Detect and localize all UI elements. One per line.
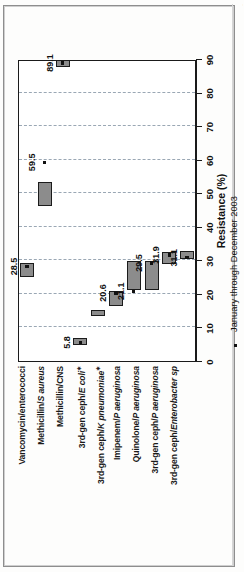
chart-stage: Vancomycin/enterococci Methicillin/S aur… xyxy=(15,12,229,560)
data-value-label: 21.1 xyxy=(116,282,126,300)
x-tick-70 xyxy=(196,126,202,127)
data-value-label: 31.1 xyxy=(169,249,179,267)
x-tick-30 xyxy=(196,260,202,261)
data-value-label: 5.8 xyxy=(62,336,72,349)
data-value-label: 59.5 xyxy=(27,154,37,172)
x-axis-line xyxy=(196,60,197,362)
x-tick-80 xyxy=(196,93,202,94)
x-tick-label-10: 10 xyxy=(204,323,215,334)
figure-page: nosocomial infections in IC Vancomycin/e… xyxy=(0,0,244,572)
category-label-imipenem-p-aeruginosa: Imipenem/P aeruginosa xyxy=(112,366,122,460)
x-tick-90 xyxy=(196,59,202,60)
x-tick-label-40: 40 xyxy=(204,222,215,233)
category-label-vancomycin-enterococci: Vancomycin/enterococci xyxy=(17,366,27,465)
adjacent-column-text: nosocomial infections in IC xyxy=(241,4,243,6)
sd-bar xyxy=(91,310,105,316)
category-label-methicillin-cns: Methicillin/CNS xyxy=(55,366,65,427)
data-value-label: 28.5 xyxy=(9,258,19,276)
legend-label-2003: January through December 2003 xyxy=(229,196,239,332)
chart-legend: January through December 2003 1998 throu… xyxy=(229,34,244,354)
gridline-70 xyxy=(19,125,195,126)
sd-bar xyxy=(145,261,159,290)
category-axis-labels: Vancomycin/enterococci Methicillin/S aur… xyxy=(15,364,200,560)
sd-bar xyxy=(38,182,52,205)
x-tick-50 xyxy=(196,193,202,194)
x-tick-20 xyxy=(196,294,202,295)
x-tick-0 xyxy=(196,361,202,362)
gridline-80 xyxy=(19,92,195,93)
x-tick-label-0: 0 xyxy=(204,359,215,364)
x-tick-label-50: 50 xyxy=(204,189,215,200)
gridline-60 xyxy=(19,159,195,160)
gridline-10 xyxy=(19,326,195,327)
legend-item-2003: January through December 2003 xyxy=(229,34,244,354)
x-tick-label-60: 60 xyxy=(204,155,215,166)
legend-dot-marker-icon xyxy=(234,344,237,347)
x-tick-label-70: 70 xyxy=(204,122,215,133)
data-point-dot xyxy=(79,341,82,344)
data-point-dot xyxy=(185,256,188,259)
gridline-40 xyxy=(19,226,195,227)
plot-area xyxy=(18,60,196,362)
data-point-dot xyxy=(25,265,28,268)
data-point-dot xyxy=(132,290,135,293)
data-value-label: 20.6 xyxy=(98,284,108,302)
x-tick-60 xyxy=(196,160,202,161)
data-value-label: 89.1 xyxy=(45,54,55,72)
x-axis-title: Resistance (%) xyxy=(215,60,227,362)
x-tick-10 xyxy=(196,327,202,328)
data-value-label: 31.9 xyxy=(151,246,161,264)
x-tick-label-20: 20 xyxy=(204,290,215,301)
data-point-dot xyxy=(43,161,46,164)
category-label-3rd-gen-ceph-e-coli: 3rd-gen ceph/E coli∗ xyxy=(74,366,87,448)
category-label-3rd-gen-ceph-enterobacter: 3rd-gen ceph/Enterobacter sp xyxy=(169,366,179,485)
x-tick-label-90: 90 xyxy=(204,55,215,66)
x-tick-40 xyxy=(196,227,202,228)
x-tick-label-30: 30 xyxy=(204,256,215,267)
category-label-methicillin-s-aureus: Methicillin/S aureus xyxy=(36,366,46,445)
category-label-3rd-gen-ceph-p-aeruginosa: 3rd-gen ceph/P aeruginosa xyxy=(150,366,160,474)
data-point-dot xyxy=(61,61,64,64)
category-label-3rd-gen-ceph-k-pneumoniae: 3rd-gen ceph/K pneumoniae∗ xyxy=(93,366,106,484)
x-tick-label-80: 80 xyxy=(204,88,215,99)
category-label-quinolone-p-aeruginosa: Quinolone/P aeruginosa xyxy=(131,366,141,462)
data-value-label: 29.5 xyxy=(134,254,144,272)
